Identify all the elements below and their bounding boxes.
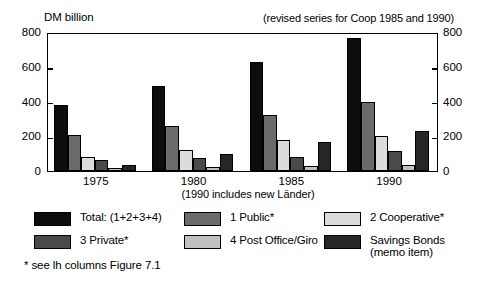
legend-swatch-public <box>184 212 221 226</box>
bar-1985-series-4 <box>304 166 318 171</box>
bar-1990-series-1 <box>361 102 375 171</box>
legend-swatch-cooperative <box>324 212 361 226</box>
y-axis-left-label-800: 800 <box>8 26 41 38</box>
legend-item-savings-bonds: Savings Bonds (memo item) <box>324 234 445 259</box>
legend-item-cooperative: 2 Cooperative* <box>324 211 444 226</box>
x-axis-label-1990: 1990 <box>340 175 438 187</box>
bar-1975-series-4 <box>108 168 122 171</box>
bar-1975-series-5 <box>122 165 136 171</box>
y-axis-right-label-200: 200 <box>443 130 477 142</box>
legend-item-total: Total: (1+2+3+4) <box>34 211 162 226</box>
y-axis-left-label-600: 600 <box>8 61 41 73</box>
legend-label-total: Total: (1+2+3+4) <box>80 211 162 223</box>
figure-footnote: * see lh columns Figure 7.1 <box>24 259 161 271</box>
y-axis-left-label-0: 0 <box>8 165 41 177</box>
legend-item-private: 3 Private* <box>34 234 128 249</box>
y-tick-right-400 <box>432 103 437 105</box>
legend-label-post-office-giro: 4 Post Office/Giro <box>230 234 318 246</box>
bar-1990-series-4 <box>402 165 416 171</box>
bar-1985-series-5 <box>318 142 332 171</box>
legend-label-public: 1 Public* <box>230 211 274 223</box>
legend-row: 3 Private* 4 Post Office/Giro Savings Bo… <box>34 234 484 257</box>
legend-label-savings-bonds-main: Savings Bonds <box>370 234 445 246</box>
bar-1980-series-4 <box>206 167 220 171</box>
x-axis-label-1980: 1980 <box>145 175 243 187</box>
bar-1975-series-3 <box>95 160 109 171</box>
bar-1985-series-0 <box>250 62 264 171</box>
plot-area <box>47 33 438 172</box>
bar-group-1980 <box>152 34 234 171</box>
bar-1980-series-2 <box>179 150 193 171</box>
legend-swatch-private <box>34 235 71 249</box>
bar-group-1985 <box>250 34 332 171</box>
bar-1980-series-0 <box>152 86 166 171</box>
bar-1980-series-5 <box>220 154 234 171</box>
y-tick-right-600 <box>432 68 437 70</box>
bar-1975-series-0 <box>54 105 68 171</box>
bar-group-1975 <box>54 34 136 171</box>
y-tick-left-600 <box>48 68 53 70</box>
y-axis-unit-title: DM billion <box>44 11 94 23</box>
legend-swatch-savings-bonds <box>324 235 361 249</box>
y-axis-right-label-400: 400 <box>443 96 477 108</box>
legend-label-cooperative: 2 Cooperative* <box>370 211 444 223</box>
bar-1985-series-1 <box>263 115 277 171</box>
y-axis-left-label-400: 400 <box>8 96 41 108</box>
y-axis-right-label-600: 600 <box>443 61 477 73</box>
legend-item-public: 1 Public* <box>184 211 274 226</box>
bar-1985-series-3 <box>290 157 304 171</box>
bar-group-1990 <box>347 34 429 171</box>
bar-1980-series-1 <box>165 126 179 171</box>
legend-swatch-post-office-giro <box>184 235 221 249</box>
legend-row: Total: (1+2+3+4) 1 Public* 2 Cooperative… <box>34 211 484 234</box>
y-tick-left-200 <box>48 138 53 140</box>
bar-1990-series-2 <box>375 136 389 171</box>
laender-note: (1990 includes new Länder) <box>0 188 496 200</box>
legend-label-savings-bonds: Savings Bonds (memo item) <box>370 234 445 259</box>
bar-1980-series-3 <box>193 158 207 171</box>
bar-1975-series-1 <box>68 135 82 171</box>
y-axis-right-label-800: 800 <box>443 26 477 38</box>
bar-1990-series-5 <box>415 131 429 171</box>
chart-legend: Total: (1+2+3+4) 1 Public* 2 Cooperative… <box>34 211 484 257</box>
bars-layer <box>48 34 437 171</box>
bar-1975-series-2 <box>81 157 95 171</box>
y-axis-left-label-200: 200 <box>8 130 41 142</box>
y-tick-left-400 <box>48 103 53 105</box>
legend-label-savings-bonds-sub: (memo item) <box>370 246 445 259</box>
x-axis-label-1985: 1985 <box>243 175 341 187</box>
y-axis-right-label-0: 0 <box>443 165 477 177</box>
x-axis-label-1975: 1975 <box>47 175 145 187</box>
figure-container: DM billion (revised series for Coop 1985… <box>0 0 496 286</box>
legend-label-private: 3 Private* <box>80 234 128 246</box>
revision-series-note: (revised series for Coop 1985 and 1990) <box>263 12 454 24</box>
legend-item-post-office-giro: 4 Post Office/Giro <box>184 234 318 249</box>
legend-swatch-total <box>34 212 71 226</box>
bar-1990-series-0 <box>347 38 361 171</box>
bar-1985-series-2 <box>277 140 291 171</box>
bar-1990-series-3 <box>388 151 402 171</box>
y-tick-right-200 <box>432 138 437 140</box>
